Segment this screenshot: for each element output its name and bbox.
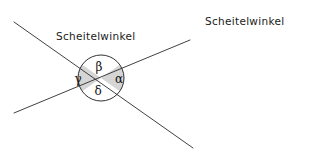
scheitelwinkel-label-left: Scheitelwinkel xyxy=(56,31,135,42)
angle-label-gamma: γ xyxy=(74,72,81,86)
angle-label-beta: β xyxy=(96,60,103,74)
scheitelwinkel-label-right: Scheitelwinkel xyxy=(205,16,284,27)
angle-label-delta: δ xyxy=(94,84,101,98)
angle-label-alpha: α xyxy=(115,72,123,86)
